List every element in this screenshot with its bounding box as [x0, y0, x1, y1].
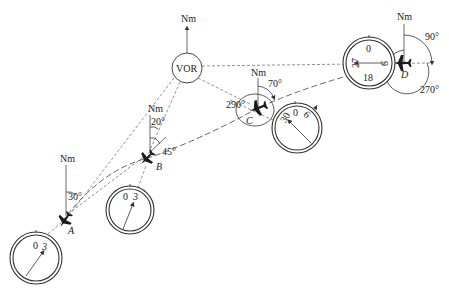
dial-c-mark-0: 0	[293, 107, 298, 118]
rmi-dial-c: 30 0 6	[272, 101, 322, 153]
angle-arc-b-20	[150, 127, 158, 129]
dial-link-a	[48, 222, 62, 234]
dial-a-mark-3: 3	[41, 241, 47, 252]
north-label-c: Nm	[251, 67, 266, 78]
north-label-d: Nm	[397, 11, 412, 22]
dial-link-b	[138, 166, 146, 188]
dial-d-mark-9: 9	[379, 61, 390, 66]
angle-arc-b-45	[150, 138, 160, 144]
aircraft-a-label: A	[67, 225, 75, 236]
dial-b-mark-3: 3	[132, 191, 138, 202]
vor-navigation-diagram: Nm VOR Nm 30° A 0 3 Nm 20° 45° B 0	[0, 0, 449, 294]
rmi-dial-a: 0 3	[10, 230, 62, 284]
rmi-dial-b: 0 3	[106, 184, 154, 234]
dial-d-mark-18: 18	[363, 72, 373, 83]
angle-d-90: 90°	[425, 31, 439, 42]
angle-b-20: 20°	[151, 116, 165, 127]
aircraft-b-group: Nm 20° 45° B	[136, 103, 176, 172]
aircraft-b-label: B	[156, 161, 162, 172]
angle-a-30: 30°	[68, 191, 82, 202]
dial-b-mark-0: 0	[123, 191, 128, 202]
figure-caption	[120, 282, 340, 292]
vor-label: VOR	[176, 63, 197, 74]
north-label-a: Nm	[60, 153, 75, 164]
dial-d-mark-0: 0	[366, 43, 371, 54]
north-label-b: Nm	[148, 103, 163, 114]
rmi-dial-d: 0 27 18 9	[343, 35, 395, 89]
vor-north-label: Nm	[181, 13, 196, 24]
angle-c-290: 290°	[226, 99, 245, 110]
aircraft-c-label: C	[246, 115, 253, 126]
angle-c-70: 70°	[268, 78, 282, 89]
angle-b-45: 45°	[162, 146, 176, 157]
aircraft-d-label: D	[400, 69, 409, 80]
dial-a-mark-0: 0	[33, 240, 38, 251]
angle-d-270: 270°	[420, 84, 439, 95]
vor-station: Nm VOR	[172, 13, 202, 83]
aircraft-a-group: Nm 30° A	[54, 153, 82, 236]
aircraft-b-icon	[136, 147, 158, 169]
